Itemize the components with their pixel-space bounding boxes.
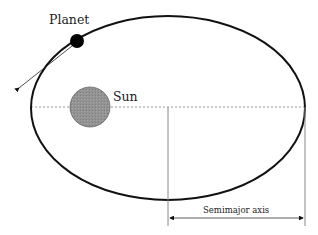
planet-icon	[70, 34, 84, 48]
sun-label: Sun	[113, 89, 138, 104]
velocity-arrow	[19, 46, 72, 88]
semimajor-axis-label: Semimajor axis	[203, 205, 269, 215]
planet-label: Planet	[49, 12, 89, 27]
orbit-diagram: Planet Sun Semimajor axis	[0, 0, 318, 235]
sun-icon	[70, 87, 110, 127]
